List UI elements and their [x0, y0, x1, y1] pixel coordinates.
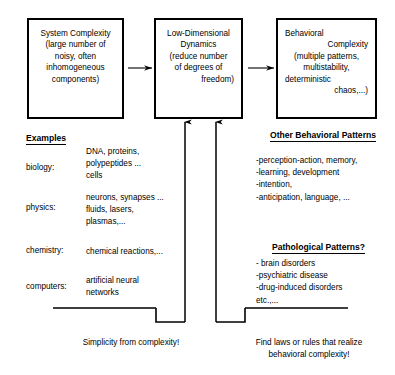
pathological-item-2: -drug-induced disorders [256, 282, 342, 294]
box-system-line-0: System Complexity [36, 28, 115, 39]
box-behavioral-line-1: Complexity [285, 39, 368, 50]
example-biology-item-2: cells [86, 170, 141, 182]
example-physics-item-1: fluids, lasers, [86, 204, 164, 216]
pathological-patterns-list: - brain disorders -psychiatric disease -… [256, 258, 342, 307]
box-lowdim-line-1: Dynamics [163, 39, 234, 50]
box-behavioral-line-3: multistability, [285, 62, 368, 73]
example-label-physics: physics: [26, 203, 56, 212]
box-low-dimensional-dynamics: Low-Dimensional Dynamics (reduce number … [154, 18, 243, 119]
example-items-physics: neurons, synapses ... fluids, lasers, pl… [86, 192, 164, 227]
example-biology-item-0: DNA, proteins, [86, 146, 141, 158]
other-behavioral-patterns-heading: Other Behavioral Patterns [270, 130, 376, 142]
box-system-line-2: noisy, often [36, 51, 115, 62]
example-computers-item-1: networks [86, 287, 139, 299]
example-label-computers: computers: [26, 282, 67, 291]
box-system-line-3: inhomogeneous [36, 62, 115, 73]
box-lowdim-line-2: (reduce number [163, 51, 234, 62]
other-pattern-item-0: -perception-action, memory, [256, 155, 357, 167]
box-system-complexity: System Complexity (large number of noisy… [27, 18, 124, 119]
pathological-item-0: - brain disorders [256, 258, 342, 270]
other-pattern-item-1: -learning, development [256, 167, 357, 179]
box-lowdim-line-4: freedom) [163, 74, 234, 85]
caption-left: Simplicity from complexity! [52, 337, 210, 349]
example-items-computers: artificial neural networks [86, 275, 139, 299]
example-physics-item-2: plasmas,... [86, 216, 164, 228]
example-biology-item-1: polypeptides ... [86, 158, 141, 170]
pathological-item-1: -psychiatric disease [256, 270, 342, 282]
box-behavioral-line-5: chaos,...) [285, 85, 368, 96]
example-items-biology: DNA, proteins, polypeptides ... cells [86, 146, 141, 181]
example-physics-item-0: neurons, synapses ... [86, 192, 164, 204]
example-label-biology: biology: [26, 163, 54, 172]
caption-left-line-0: Simplicity from complexity! [52, 337, 210, 349]
bracket-left [53, 308, 185, 322]
pathological-patterns-heading: Pathological Patterns? [272, 242, 365, 254]
box-system-line-1: (large number of [36, 39, 115, 50]
bracket-right [216, 308, 348, 322]
example-label-chemistry: chemistry: [26, 246, 63, 255]
box-lowdim-line-0: Low-Dimensional [163, 28, 234, 39]
other-pattern-item-3: -anticipation, language, ... [256, 192, 357, 204]
box-behavioral-line-2: (multiple patterns, [285, 51, 368, 62]
box-system-line-4: components) [36, 74, 115, 85]
caption-right-line-0: Find laws or rules that realize [230, 337, 388, 349]
box-behavioral-line-4: deterministic [285, 74, 368, 85]
examples-heading: Examples [26, 133, 66, 145]
pathological-item-3: etc.,... [256, 295, 342, 307]
other-behavioral-patterns-list: -perception-action, memory, -learning, d… [256, 155, 357, 204]
box-behavioral-line-0: Behavioral [285, 28, 368, 39]
caption-right-line-1: behavioral complexity! [230, 349, 388, 361]
caption-right: Find laws or rules that realize behavior… [230, 337, 388, 360]
concept-diagram: System Complexity (large number of noisy… [0, 0, 395, 375]
box-behavioral-complexity: Behavioral Complexity (multiple patterns… [276, 18, 377, 119]
example-chemistry-item-0: chemical reactions,... [86, 246, 163, 258]
example-items-chemistry: chemical reactions,... [86, 246, 163, 258]
box-lowdim-line-3: of degrees of [163, 62, 234, 73]
other-pattern-item-2: -intention, [256, 179, 357, 191]
example-computers-item-0: artificial neural [86, 275, 139, 287]
